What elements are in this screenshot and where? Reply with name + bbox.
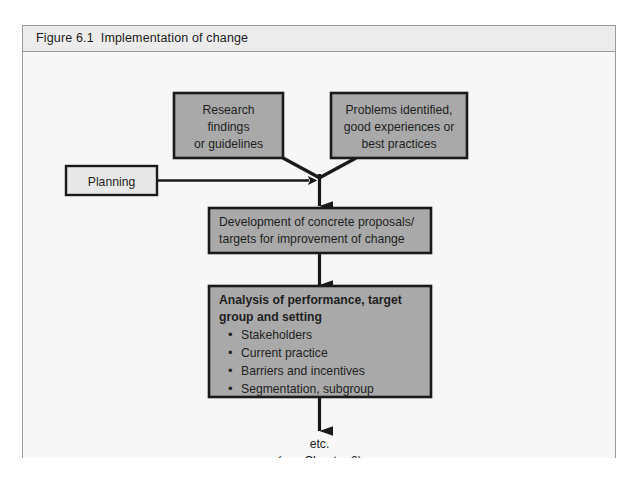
node-analysis: Analysis of performance, target group an… (209, 286, 431, 397)
node-problems-line-2: good experiences or (344, 120, 454, 134)
node-planning: Planning (66, 166, 157, 195)
node-problems-line-1: Problems identified, (345, 103, 452, 117)
node-research-line-1: Research (202, 103, 254, 117)
end-note-line-1: etc. (310, 437, 330, 451)
figure-caption: Figure 6.1Implementation of change (36, 31, 248, 45)
bullet-dot-icon: • (228, 327, 233, 342)
node-research-line-3: or guidelines (194, 137, 263, 151)
node-development-line-2: targets for improvement of change (219, 232, 405, 246)
node-research: Research findings or guidelines (174, 93, 283, 158)
figure-header-band: Figure 6.1Implementation of change (23, 26, 615, 52)
node-analysis-bullet-3: Barriers and incentives (241, 364, 365, 378)
figure-body: Research findings or guidelines Problems… (23, 52, 615, 458)
end-note-line-2: (see Chapter 3) (277, 454, 362, 458)
edge-problems-to-merge (320, 158, 356, 178)
node-development: Development of concrete proposals/ targe… (209, 208, 431, 253)
node-analysis-bullet-1: Stakeholders (241, 328, 312, 342)
bullet-dot-icon: • (228, 381, 233, 396)
flowchart-diagram: Research findings or guidelines Problems… (23, 52, 615, 458)
edge-research-to-merge (283, 158, 319, 178)
node-analysis-bullet-2: Current practice (241, 346, 328, 360)
figure-caption-number: Figure 6.1 (36, 31, 94, 45)
node-research-line-2: findings (207, 120, 249, 134)
node-analysis-bullet-4: Segmentation, subgroup (241, 382, 374, 396)
node-planning-label: Planning (88, 175, 135, 189)
bullet-dot-icon: • (228, 345, 233, 360)
node-analysis-heading-line-2: group and setting (219, 310, 322, 324)
node-development-line-1: Development of concrete proposals/ (219, 215, 415, 229)
node-problems: Problems identified, good experiences or… (331, 93, 467, 158)
node-analysis-heading-line-1: Analysis of performance, target (219, 293, 402, 307)
figure-root: Figure 6.1Implementation of change (0, 0, 643, 488)
bullet-dot-icon: • (228, 363, 233, 378)
figure-caption-title: Implementation of change (101, 31, 248, 45)
node-problems-line-3: best practices (361, 137, 436, 151)
end-note: etc. (see Chapter 3) (277, 437, 362, 458)
figure-frame: Figure 6.1Implementation of change (22, 25, 616, 458)
